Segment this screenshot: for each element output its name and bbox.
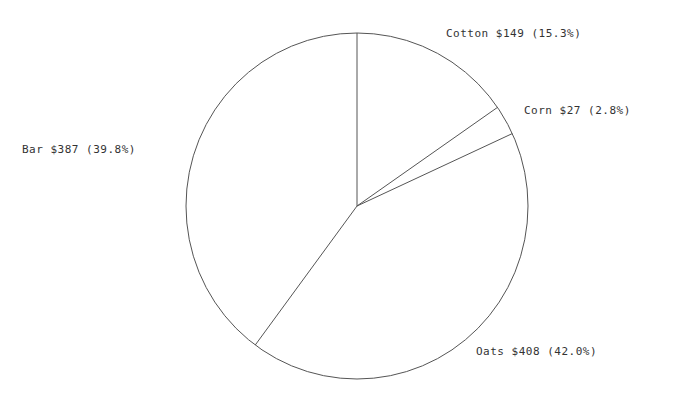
slice-label-cotton: Cotton $149 (15.3%) (446, 27, 581, 40)
slice-label-bar: Bar $387 (39.8%) (22, 143, 136, 156)
slice-label-oats: Oats $408 (42.0%) (476, 345, 597, 358)
slice-label-corn: Corn $27 (2.8%) (524, 104, 631, 117)
